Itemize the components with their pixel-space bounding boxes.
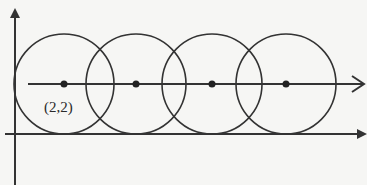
first-center-label: (2,2) (44, 99, 73, 116)
circles-on-line-figure (0, 0, 367, 185)
diagram-canvas: (2,2) (0, 0, 367, 185)
center-dot-4 (283, 81, 290, 88)
center-dot-3 (209, 81, 216, 88)
center-dot-1 (61, 81, 68, 88)
center-dot-2 (133, 81, 140, 88)
